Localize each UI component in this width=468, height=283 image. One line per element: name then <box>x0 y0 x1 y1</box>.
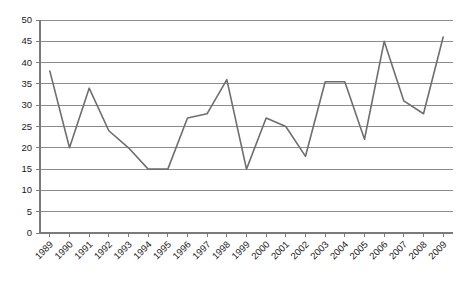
x-tick-label: 1993 <box>111 239 134 262</box>
y-tick-label: 10 <box>21 184 32 195</box>
x-tick-label: 1996 <box>170 239 193 262</box>
x-tick-label: 2001 <box>269 239 292 262</box>
x-tick-label: 1991 <box>72 239 95 262</box>
x-tick-label: 2007 <box>387 239 410 262</box>
x-tick-label: 1995 <box>151 239 174 262</box>
x-tick-label: 1992 <box>92 239 115 262</box>
x-axis-tick-labels: 1989199019911992199319941995199619971998… <box>33 239 449 262</box>
y-tick-label: 25 <box>21 121 32 132</box>
x-tick-label: 1989 <box>33 239 56 262</box>
y-tick-label: 45 <box>21 35 32 46</box>
y-tick-label: 50 <box>21 14 32 25</box>
x-tick-label: 2006 <box>367 239 390 262</box>
line-chart: 05101520253035404550 1989199019911992199… <box>0 0 468 283</box>
x-tick-label: 2002 <box>288 239 311 262</box>
y-tick-label: 40 <box>21 57 32 68</box>
y-tick-label: 15 <box>21 163 32 174</box>
x-tick-label: 2000 <box>249 239 272 262</box>
x-tick-label: 2005 <box>347 239 370 262</box>
x-tick-label: 2003 <box>308 239 331 262</box>
chart-canvas: 05101520253035404550 1989199019911992199… <box>0 0 468 283</box>
x-tick-label: 1999 <box>229 239 252 262</box>
x-tick-label: 2008 <box>406 239 429 262</box>
y-tick-label: 20 <box>21 142 32 153</box>
x-tick-label: 2009 <box>426 239 449 262</box>
y-tick-label: 0 <box>27 227 32 238</box>
x-axis-tickmarks <box>50 233 443 237</box>
y-axis-tickmarks <box>36 20 40 233</box>
x-tick-label: 1998 <box>210 239 233 262</box>
data-series-line <box>50 37 443 169</box>
y-axis-tick-labels: 05101520253035404550 <box>21 14 32 238</box>
y-tick-label: 5 <box>27 206 32 217</box>
x-tick-label: 1990 <box>52 239 75 262</box>
y-tick-label: 30 <box>21 99 32 110</box>
x-tick-label: 1997 <box>190 239 213 262</box>
x-tick-label: 1994 <box>131 239 154 262</box>
y-tick-label: 35 <box>21 78 32 89</box>
x-tick-label: 2004 <box>328 239 351 262</box>
